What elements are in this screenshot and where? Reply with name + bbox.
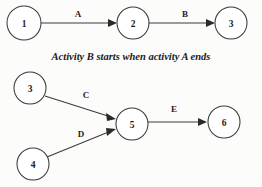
top-graph: A B 1 2 3	[7, 6, 247, 40]
edge-a-label: A	[75, 9, 82, 19]
diagram-canvas: A B 1 2 3 Ac	[0, 0, 262, 187]
edge-e: E	[148, 104, 207, 126]
edge-a: A	[41, 9, 117, 27]
node-3-top: 3	[215, 7, 247, 39]
node-3-bottom: 3	[14, 72, 46, 104]
node-2: 2	[117, 7, 149, 39]
node-4: 4	[17, 148, 49, 180]
node-5: 5	[116, 108, 148, 140]
node-3-top-label: 3	[229, 19, 234, 29]
edge-d: D	[47, 128, 116, 157]
edge-d-label: D	[78, 129, 85, 139]
edge-b: B	[149, 9, 215, 27]
edge-c-label: C	[83, 90, 90, 100]
edge-a-arrowhead	[108, 19, 117, 27]
node-1: 1	[7, 6, 41, 40]
bottom-graph: C D E 3 4	[14, 72, 240, 180]
edge-b-arrowhead	[206, 19, 215, 27]
node-6-label: 6	[222, 118, 227, 128]
node-6: 6	[208, 106, 240, 138]
edge-c-line	[45, 96, 111, 117]
node-3-bottom-label: 3	[28, 84, 33, 94]
node-4-label: 4	[31, 160, 36, 170]
diagram-caption: Activity B starts when activity A ends	[51, 51, 211, 62]
edge-b-label: B	[182, 9, 188, 19]
node-2-label: 2	[131, 19, 136, 29]
edge-c-arrowhead	[106, 113, 116, 121]
node-1-label: 1	[22, 19, 27, 29]
node-5-label: 5	[130, 120, 135, 130]
edge-e-label: E	[171, 104, 177, 114]
edge-e-arrowhead	[198, 118, 207, 126]
edge-d-arrowhead	[106, 128, 116, 136]
edge-c: C	[45, 90, 116, 121]
activity-diagram: A B 1 2 3 Ac	[0, 0, 262, 187]
